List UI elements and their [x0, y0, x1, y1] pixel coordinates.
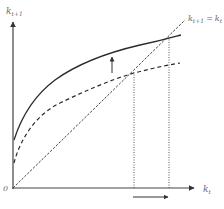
solid-curve	[14, 35, 181, 140]
45-degree-line	[13, 20, 185, 188]
origin-label: 0	[3, 184, 8, 193]
diagram-canvas: kt+1 kt 0 kt+1=kt	[0, 0, 224, 209]
x-axis-label: kt	[203, 184, 211, 195]
45-degree-line-label: kt+1=kt	[188, 14, 223, 24]
dashed-curve	[14, 63, 180, 163]
y-axis-label: kt+1	[6, 6, 23, 17]
